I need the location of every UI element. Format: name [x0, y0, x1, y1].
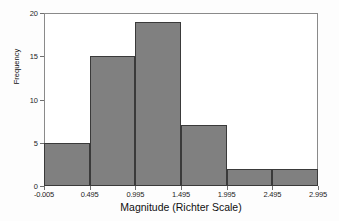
x-axis-tick-label: 1.995	[218, 190, 236, 199]
x-axis-tick-label: 2.995	[309, 190, 327, 199]
y-axis-tick-label: 10	[30, 95, 38, 104]
histogram-bar	[272, 169, 318, 186]
y-axis-tick-label: 0	[34, 182, 38, 191]
histogram-bar	[227, 169, 273, 186]
x-axis-tick-label: -0.005	[34, 190, 54, 199]
x-axis-tick-label: 0.495	[81, 190, 99, 199]
bar-series	[44, 13, 318, 186]
histogram-bar	[44, 143, 90, 186]
histogram-bar	[90, 56, 136, 186]
y-axis-tick	[40, 100, 44, 101]
x-axis-title: Magnitude (Richter Scale)	[44, 201, 318, 213]
histogram-bar	[135, 22, 181, 186]
x-axis-tick-label: 2.495	[263, 190, 281, 199]
y-axis-title: Frequency	[12, 19, 21, 115]
y-axis-tick	[40, 13, 44, 14]
x-axis-tick-label: 0.995	[126, 190, 144, 199]
y-axis-tick-label: 20	[30, 9, 38, 18]
histogram-bar	[181, 125, 227, 186]
y-axis-tick	[40, 143, 44, 144]
y-axis-tick-label: 5	[34, 138, 38, 147]
histogram-chart: -0.0050.4950.9951.4951.9952.4952.995 051…	[0, 0, 339, 221]
y-axis-tick	[40, 56, 44, 57]
x-axis-tick-label: 1.495	[172, 190, 190, 199]
y-axis-tick-label: 15	[30, 52, 38, 61]
y-axis-tick	[40, 186, 44, 187]
